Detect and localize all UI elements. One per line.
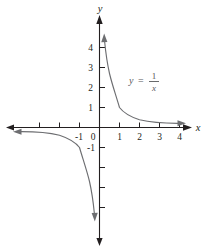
- y-tick-label-3: 3: [88, 63, 93, 73]
- curve-negative-path: [20, 132, 95, 214]
- x-tick-marks: [40, 123, 180, 128]
- x-tick-label-4: 4: [177, 132, 182, 142]
- equation-annotation: y = 1 x: [128, 71, 159, 93]
- x-axis-right-arrowhead: [183, 124, 192, 131]
- y-tick-label-4: 4: [88, 43, 93, 53]
- x-tick-label-2: 2: [137, 132, 142, 142]
- equation-lhs: y: [128, 75, 134, 86]
- y-axis-top-arrowhead: [96, 15, 102, 24]
- y-axis-label: y: [97, 3, 103, 14]
- equation-numerator: 1: [152, 71, 157, 81]
- graph-figure: -1 0 1 2 3 4 4 3 2 1 -1 x y: [0, 0, 212, 248]
- origin-label: 0: [91, 132, 96, 142]
- x-axis-label: x: [195, 122, 201, 133]
- y-tick-label-neg1: -1: [87, 143, 95, 153]
- hyperbola-plot: -1 0 1 2 3 4 4 3 2 1 -1 x y: [0, 0, 212, 248]
- y-tick-label-1: 1: [88, 103, 93, 113]
- y-axis: [96, 15, 102, 246]
- curve-negative-down-arrowhead: [92, 213, 98, 222]
- equation-denominator: x: [151, 83, 156, 93]
- x-tick-label-neg1: -1: [75, 132, 83, 142]
- x-tick-labels: -1 0 1 2 3 4: [75, 132, 182, 142]
- y-axis-bottom-arrowhead: [96, 238, 102, 246]
- curve-positive-up-arrowhead: [101, 34, 107, 43]
- curve-negative-left-arrowhead: [13, 129, 22, 135]
- equation-operator: =: [138, 75, 144, 86]
- y-tick-label-2: 2: [88, 83, 93, 93]
- x-axis-left-arrowhead: [6, 124, 14, 130]
- x-tick-label-1: 1: [117, 132, 122, 142]
- x-tick-label-3: 3: [157, 132, 162, 142]
- curve-negative-branch: [13, 129, 98, 222]
